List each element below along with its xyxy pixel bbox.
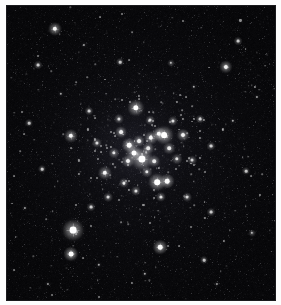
field-star (146, 102, 147, 103)
field-star (140, 214, 142, 216)
field-star (165, 151, 166, 152)
star-point (157, 132, 161, 136)
field-star (75, 84, 76, 85)
field-star (42, 36, 43, 37)
field-star (143, 169, 144, 170)
field-star (142, 159, 143, 160)
field-star (167, 248, 168, 249)
field-star (109, 120, 110, 121)
field-star (123, 183, 125, 185)
field-star (173, 92, 175, 94)
field-star (158, 167, 160, 169)
field-star (183, 145, 185, 147)
field-star (190, 207, 191, 208)
field-star (205, 141, 206, 142)
field-star (274, 220, 275, 221)
star-halo (144, 131, 158, 145)
field-star (154, 177, 155, 178)
field-star (214, 208, 215, 209)
field-star (191, 30, 193, 32)
field-star (98, 295, 100, 297)
field-star (127, 165, 128, 166)
field-star (45, 218, 47, 220)
star-halo (160, 174, 175, 189)
field-star (104, 79, 106, 81)
field-star (90, 177, 92, 179)
field-star (242, 54, 243, 55)
star-halo (148, 155, 160, 167)
field-star (160, 128, 161, 129)
field-star (154, 150, 155, 151)
star-halo (148, 173, 166, 191)
field-star (181, 269, 182, 270)
field-star (88, 130, 89, 131)
field-star (110, 296, 111, 297)
field-star (179, 94, 181, 96)
sky-nebulosity-glow (7, 6, 275, 300)
star-halo (126, 145, 142, 161)
field-star (179, 245, 181, 247)
field-star (170, 230, 171, 231)
field-star (52, 163, 54, 165)
field-star (159, 164, 160, 165)
field-star (200, 140, 201, 141)
star-point (69, 134, 73, 138)
field-star (199, 168, 201, 170)
field-star (51, 294, 53, 296)
field-star (129, 101, 131, 103)
field-star (196, 220, 197, 221)
field-star (179, 165, 181, 167)
field-star (222, 128, 224, 130)
field-star (94, 64, 95, 65)
field-star (9, 188, 10, 189)
field-star (129, 163, 130, 164)
field-star (100, 145, 102, 147)
star-point (95, 141, 98, 144)
star-diffraction-spike (52, 26, 59, 33)
field-star (23, 133, 25, 135)
field-star (143, 42, 144, 43)
field-star (153, 113, 154, 114)
field-star (188, 157, 190, 159)
star-point (170, 62, 172, 64)
field-star (16, 236, 17, 237)
star-halo (248, 229, 256, 237)
star-halo (152, 127, 166, 141)
field-star (196, 195, 197, 196)
field-star (145, 152, 146, 153)
field-star (140, 157, 141, 158)
field-star (204, 171, 206, 173)
field-star (251, 85, 252, 86)
caption-strip (6, 301, 276, 305)
star-point (53, 27, 57, 31)
field-star (24, 275, 25, 276)
field-star (145, 166, 146, 167)
field-star (138, 95, 140, 97)
star-halo (155, 126, 174, 145)
field-star (184, 138, 186, 140)
star-point (191, 159, 194, 162)
star-diffraction-spike (156, 131, 163, 138)
field-star (265, 157, 266, 158)
field-star (145, 150, 146, 151)
field-star (266, 210, 267, 211)
field-star (70, 273, 71, 274)
field-star (117, 130, 118, 131)
star-point (210, 145, 213, 148)
star-diffraction-spike (126, 142, 133, 149)
field-star (185, 298, 186, 299)
field-star (17, 272, 18, 273)
star-halo (219, 60, 232, 73)
field-star (102, 189, 104, 191)
field-star (25, 257, 26, 258)
field-star (189, 166, 190, 167)
field-star (94, 150, 96, 152)
field-star (174, 190, 175, 191)
field-star (105, 240, 106, 241)
star-halo (172, 154, 183, 165)
field-star (162, 155, 164, 157)
field-star (165, 215, 166, 216)
field-star (191, 116, 192, 117)
field-star (179, 232, 180, 233)
field-star (200, 27, 201, 28)
